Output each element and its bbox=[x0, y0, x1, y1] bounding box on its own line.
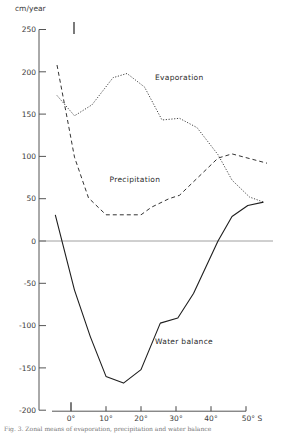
y-tick-label: 250 bbox=[22, 25, 37, 34]
y-tick-label: 50 bbox=[26, 194, 36, 203]
labels-group: EvaporationPrecipitationWater balance bbox=[110, 73, 214, 346]
y-tick-label: 200 bbox=[22, 68, 37, 77]
y-tick-label: 0 bbox=[31, 237, 36, 246]
water-balance-label: Water balance bbox=[155, 337, 213, 346]
precipitation-line bbox=[57, 65, 267, 215]
y-tick-label: -200 bbox=[19, 406, 36, 415]
y-tick-label: -150 bbox=[19, 364, 36, 373]
series-group bbox=[55, 65, 267, 383]
x-tick-label: 10° bbox=[99, 414, 113, 423]
precipitation-label: Precipitation bbox=[110, 175, 161, 184]
x-tick-label: 0° bbox=[67, 414, 76, 423]
evaporation-label: Evaporation bbox=[155, 73, 203, 82]
x-tick-label: 30° bbox=[169, 414, 183, 423]
x-tick-label: 40° bbox=[204, 414, 218, 423]
y-tick-label: 150 bbox=[22, 110, 37, 119]
y-axis-unit-label: cm/year bbox=[15, 4, 47, 13]
axes: 250200150100500-50-100-150-200cm/year0°1… bbox=[15, 4, 273, 423]
water-balance-chart: 250200150100500-50-100-150-200cm/year0°1… bbox=[0, 0, 281, 434]
y-tick-label: 100 bbox=[22, 152, 37, 161]
y-tick-label: -50 bbox=[24, 279, 36, 288]
x-tick-label: 20° bbox=[134, 414, 148, 423]
water-balance-line bbox=[55, 202, 263, 383]
x-tick-label: 50° S bbox=[242, 414, 263, 423]
y-tick-label: -100 bbox=[19, 321, 36, 330]
figure-caption: Fig. 3. Zonal means of evaporation, prec… bbox=[4, 425, 211, 432]
